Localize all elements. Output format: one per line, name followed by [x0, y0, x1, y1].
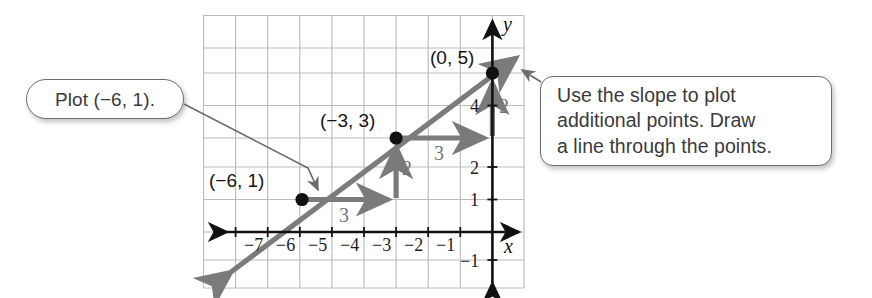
xtick--4: −4 — [340, 236, 359, 254]
point-label--3-3: (−3, 3) — [320, 111, 375, 130]
point-label--6-1: (−6, 1) — [209, 171, 264, 190]
ytick-1: 1 — [470, 191, 479, 209]
ytick-4: 4 — [470, 97, 479, 115]
xtick--3: −3 — [372, 236, 391, 254]
xtick--7: −7 — [244, 236, 263, 254]
callout-slope-instruction: Use the slope to plot additional points.… — [540, 76, 832, 166]
callout-slope-instruction-text: Use the slope to plot additional points.… — [557, 83, 772, 159]
rise-label-1: 2 — [402, 158, 412, 178]
point--6-1 — [295, 193, 308, 206]
xtick--5: −5 — [308, 236, 327, 254]
callout-plot-point-text: Plot (−6, 1). — [55, 90, 155, 109]
xtick--6: −6 — [276, 236, 295, 254]
leader-right — [522, 70, 541, 82]
callout-line-2: additional points. Draw — [557, 108, 772, 133]
xtick--1: −1 — [436, 236, 455, 254]
xtick--2: −2 — [404, 236, 423, 254]
rise-label-2: 2 — [499, 96, 509, 116]
y-axis-label: y — [503, 13, 512, 36]
callout-line-1: Use the slope to plot — [557, 83, 772, 108]
ytick-2: 2 — [470, 159, 479, 177]
point--3-3 — [390, 131, 403, 144]
run-label-2: 3 — [434, 143, 444, 163]
callout-line-3: a line through the points. — [557, 134, 772, 159]
point-0-5 — [486, 66, 499, 79]
run-label-1: 3 — [339, 205, 349, 225]
ytick--1: −1 — [460, 252, 479, 270]
point-label-0-5: (0, 5) — [430, 48, 474, 67]
callout-plot-point: Plot (−6, 1). — [26, 79, 184, 119]
x-axis-label: x — [504, 235, 513, 258]
figure-canvas: (−6, 1) (−3, 3) (0, 5) −7 −6 −5 −4 −3 −2… — [0, 0, 872, 298]
